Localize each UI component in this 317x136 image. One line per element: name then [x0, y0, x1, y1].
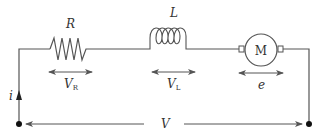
current-arrow-icon [16, 90, 22, 100]
resistor-icon [50, 38, 92, 60]
emf-label: e [258, 78, 265, 92]
vr-label: VR [64, 77, 79, 92]
resistor-label: R [65, 17, 75, 31]
left-terminal-node [16, 121, 22, 127]
current-label: i [9, 89, 13, 103]
vl-label: VL [167, 77, 181, 92]
supply-voltage-label: V [161, 117, 171, 131]
inductor-icon [148, 28, 200, 49]
right-terminal-node [306, 121, 312, 127]
left-wire [19, 49, 50, 124]
motor-symbol: M [255, 44, 267, 58]
right-wire [283, 49, 309, 124]
inductor-label: L [169, 6, 178, 20]
circuit-diagram: i R L M VR VL e V [0, 0, 317, 136]
